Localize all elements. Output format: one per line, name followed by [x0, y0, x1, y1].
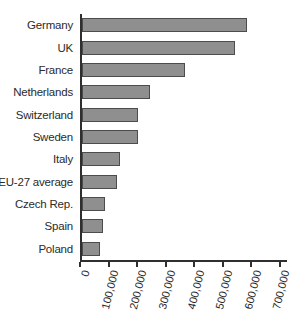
- bar-row: [82, 81, 287, 103]
- bar-row: [82, 215, 287, 237]
- x-tick: [108, 262, 110, 267]
- category-label: EU-27 average: [0, 171, 77, 193]
- x-tick: [79, 262, 81, 267]
- bar-row: [82, 238, 287, 260]
- x-tick: [279, 262, 281, 267]
- category-label: Switzerland: [0, 103, 77, 125]
- category-label: Sweden: [0, 126, 77, 148]
- x-tick-label: 500,000: [213, 269, 234, 310]
- bar-chart-figure: GermanyUKFranceNetherlandsSwitzerlandSwe…: [0, 0, 299, 323]
- category-label: Poland: [0, 238, 77, 260]
- bar-row: [82, 59, 287, 81]
- bar: [82, 18, 247, 32]
- x-tick: [193, 262, 195, 267]
- x-tick: [136, 262, 138, 267]
- category-label: Italy: [0, 148, 77, 170]
- category-label: Germany: [0, 14, 77, 36]
- bar: [82, 85, 150, 99]
- bar: [82, 152, 120, 166]
- x-tick-label: 0: [79, 269, 92, 278]
- plot-area: [80, 14, 287, 262]
- category-label: Czech Rep.: [0, 193, 77, 215]
- bar-row: [82, 148, 287, 170]
- bar: [82, 41, 235, 55]
- bar-row: [82, 126, 287, 148]
- category-label: Spain: [0, 215, 77, 237]
- x-tick: [250, 262, 252, 267]
- category-label: Netherlands: [0, 81, 77, 103]
- category-label: UK: [0, 36, 77, 58]
- bar-row: [82, 36, 287, 58]
- x-tick-label: 400,000: [185, 269, 206, 310]
- bar-row: [82, 14, 287, 36]
- x-tick-label: 200,000: [128, 269, 149, 310]
- bar: [82, 175, 117, 189]
- x-tick-label: 600,000: [242, 269, 263, 310]
- bar-row: [82, 171, 287, 193]
- bar: [82, 219, 103, 233]
- bar: [82, 130, 138, 144]
- bar-row: [82, 103, 287, 125]
- x-tick: [222, 262, 224, 267]
- x-tick: [165, 262, 167, 267]
- category-label: France: [0, 59, 77, 81]
- bar: [82, 197, 105, 211]
- bar-row: [82, 193, 287, 215]
- bar: [82, 108, 138, 122]
- x-tick-label: 300,000: [156, 269, 177, 310]
- x-tick-label: 100,000: [99, 269, 120, 310]
- bar: [82, 242, 100, 256]
- bar: [82, 63, 185, 77]
- x-tick-label: 700,000: [270, 269, 291, 310]
